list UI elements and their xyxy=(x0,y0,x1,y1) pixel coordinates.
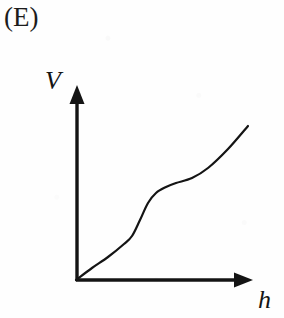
figure-canvas: (E) V h xyxy=(0,0,284,318)
y-axis-arrowhead-icon xyxy=(70,85,85,104)
x-axis-label: h xyxy=(258,285,271,314)
data-curve xyxy=(76,126,248,280)
x-axis-arrowhead-icon xyxy=(234,273,253,288)
y-axis-label: V xyxy=(45,66,64,95)
graph-figure: V h xyxy=(0,0,284,318)
